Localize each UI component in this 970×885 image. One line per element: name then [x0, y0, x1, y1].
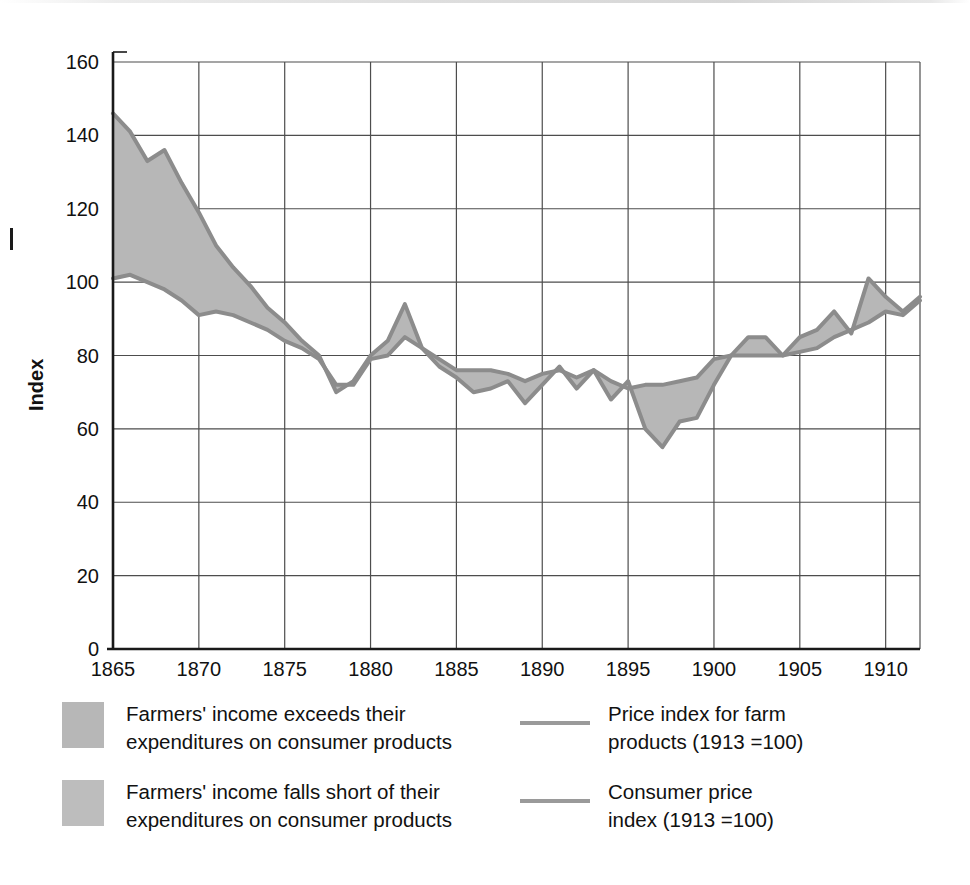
x-axis-tick-label: 1885: [434, 658, 479, 680]
y-axis-tick-label: 40: [77, 491, 99, 513]
legend-item-income-short[interactable]: Farmers' income falls short of their exp…: [62, 778, 482, 834]
legend-item-consumer-price-index[interactable]: Consumer price index (1913 =100): [520, 778, 950, 834]
y-axis-tick-label: 0: [88, 638, 99, 660]
y-axis-tick-label: 140: [66, 124, 99, 146]
y-axis-tick-label: 60: [77, 418, 99, 440]
legend-label-income-exceeds: Farmers' income exceeds their expenditur…: [126, 700, 452, 756]
x-axis-tick-label: 1890: [520, 658, 565, 680]
legend-item-farm-price-index[interactable]: Price index for farm products (1913 =100…: [520, 700, 950, 756]
legend-label-farm-price-index: Price index for farm products (1913 =100…: [608, 700, 803, 756]
x-axis-tick-label: 1895: [606, 658, 651, 680]
x-axis-tick-label: 1865: [91, 658, 136, 680]
x-axis-tick-label: 1880: [348, 658, 393, 680]
legend-item-income-exceeds[interactable]: Farmers' income exceeds their expenditur…: [62, 700, 482, 756]
area-swatch-icon-short: [62, 780, 104, 826]
y-axis-tick-label: 20: [77, 565, 99, 587]
y-axis-tick-label: 160: [66, 51, 99, 73]
y-axis-title: Index: [25, 359, 47, 411]
chart-plot-svg: 1601401201008060402001865187018751880188…: [0, 0, 970, 700]
legend-area-group: Farmers' income exceeds their expenditur…: [62, 700, 482, 856]
y-axis-tick-label: 100: [66, 271, 99, 293]
area-swatch-icon-exceeds: [62, 702, 104, 748]
line-swatch-icon-consumer: [520, 778, 590, 824]
x-axis-tick-label: 1875: [262, 658, 307, 680]
chart-legend: Farmers' income exceeds their expenditur…: [0, 700, 970, 850]
legend-line-group: Price index for farm products (1913 =100…: [520, 700, 950, 856]
x-axis-tick-label: 1900: [692, 658, 737, 680]
y-axis-tick-label: 80: [77, 345, 99, 367]
x-axis-tick-label: 1870: [177, 658, 222, 680]
x-axis-tick-label: 1905: [778, 658, 823, 680]
line-swatch-icon-farm: [520, 700, 590, 746]
legend-label-income-short: Farmers' income falls short of their exp…: [126, 778, 452, 834]
x-axis-tick-label: 1910: [863, 658, 908, 680]
y-axis-tick-label: 120: [66, 198, 99, 220]
area-band-between-indices: [113, 113, 920, 447]
legend-label-consumer-price-index: Consumer price index (1913 =100): [608, 778, 774, 834]
